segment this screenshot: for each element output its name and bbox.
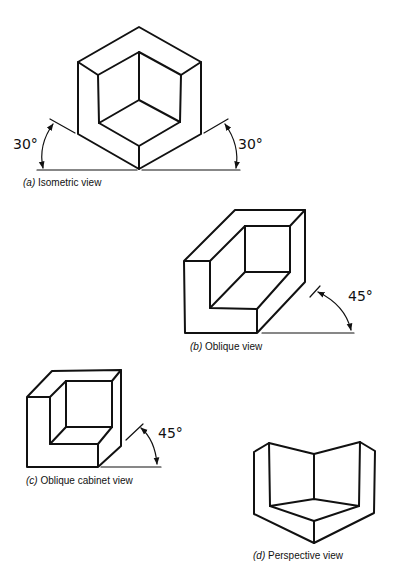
caption-d-letter: (d) <box>253 550 265 561</box>
caption-a: (a) Isometric view <box>23 177 101 188</box>
angle-label-cabinet: 45° <box>158 425 183 441</box>
caption-c-letter: (c) <box>26 475 38 486</box>
angle-label-left: 30° <box>13 136 38 152</box>
oblique-figure <box>184 210 354 333</box>
caption-b-letter: (b) <box>190 341 202 352</box>
caption-d: (d) Perspective view <box>253 550 343 561</box>
angle-label-right: 30° <box>238 136 263 152</box>
projection-drawings <box>0 0 402 582</box>
angle-label-oblique: 45° <box>348 288 373 304</box>
caption-c-text: Oblique cabinet view <box>40 475 132 486</box>
caption-c: (c) Oblique cabinet view <box>26 475 133 486</box>
perspective-figure <box>254 442 375 543</box>
cabinet-figure <box>27 370 161 467</box>
caption-a-letter: (a) <box>23 177 35 188</box>
caption-b: (b) Oblique view <box>190 341 262 352</box>
caption-a-text: Isometric view <box>38 177 101 188</box>
caption-d-text: Perspective view <box>268 550 343 561</box>
caption-b-text: Oblique view <box>205 341 262 352</box>
isometric-figure <box>37 27 240 170</box>
